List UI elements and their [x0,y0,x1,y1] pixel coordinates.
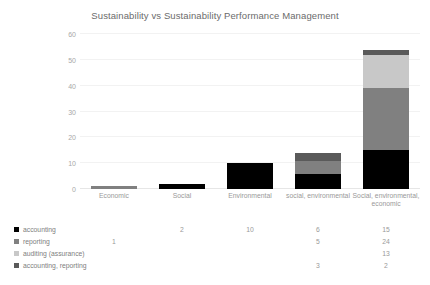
bar-segment[interactable] [159,184,205,189]
bar-stack[interactable] [159,184,205,189]
table-cell: 2 [352,260,420,271]
table-cell: 1 [80,236,148,247]
x-axis-label: Environmental [216,192,284,200]
bar-stack[interactable] [295,153,341,189]
y-tick-label: 0 [52,186,76,193]
legend-label: accounting [23,224,56,235]
y-tick-label: 20 [52,134,76,141]
legend-label: accounting, reporting [23,260,86,271]
y-tick-label: 50 [52,56,76,63]
bar-segment[interactable] [295,174,341,190]
bar-segment[interactable] [363,150,409,189]
bar-stack[interactable] [227,163,273,189]
bar-slot [80,34,148,189]
bar-stack[interactable] [91,186,137,189]
table-row: accounting, reporting32 [0,260,430,273]
legend-swatch-icon [14,263,19,268]
bar-slot [216,34,284,189]
legend-label: reporting [23,236,50,247]
bars-layer [80,34,420,189]
chart-data-table: accounting210615reporting1524auditing (a… [0,224,430,280]
y-tick-label: 40 [52,82,76,89]
legend-swatch-icon [14,239,19,244]
bar-slot [148,34,216,189]
bar-segment[interactable] [363,88,409,150]
x-axis-label: social, environmental [284,192,352,200]
x-axis-category-labels: EconomicSocialEnvironmentalsocial, envir… [80,192,420,222]
bar-segment[interactable] [91,186,137,189]
table-cell: 3 [284,260,352,271]
legend-label: auditing (assurance) [23,248,85,259]
y-tick-label: 10 [52,160,76,167]
bar-slot [352,34,420,189]
table-cell: 10 [216,224,284,235]
y-axis: 0102030405060 [52,34,76,189]
x-axis-label: Economic [80,192,148,200]
plot-area [80,34,420,189]
bar-stack[interactable] [363,50,409,189]
bar-segment[interactable] [295,161,341,174]
bar-segment[interactable] [295,153,341,161]
x-axis-label: Social [148,192,216,200]
table-cell: 15 [352,224,420,235]
legend-swatch-icon [14,251,19,256]
legend-swatch-icon [14,227,19,232]
table-cell: 2 [148,224,216,235]
table-cell: 24 [352,236,420,247]
x-axis-label: Social, environmental, economic [352,192,420,208]
table-cell: 13 [352,248,420,259]
chart-title: Sustainability vs Sustainability Perform… [0,10,430,21]
y-tick-label: 30 [52,108,76,115]
table-cell: 6 [284,224,352,235]
y-tick-label: 60 [52,31,76,38]
bar-slot [284,34,352,189]
table-cell: 5 [284,236,352,247]
chart-container: Sustainability vs Sustainability Perform… [0,0,430,285]
bar-segment[interactable] [227,163,273,189]
bar-segment[interactable] [363,55,409,89]
